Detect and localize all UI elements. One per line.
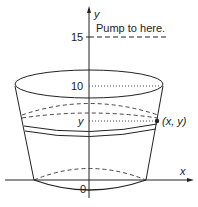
tick-label-15: 15: [71, 31, 83, 43]
tick-label-y: y: [77, 115, 85, 127]
y-axis: [87, 6, 91, 198]
slice-solid-top: [24, 124, 157, 132]
slice-dashed-front: [22, 113, 158, 118]
tank-bottom-back: [34, 169, 146, 181]
slice-solid-bottom: [25, 129, 156, 137]
pump-annotation: Pump to here.: [96, 22, 165, 34]
tick-label-10: 10: [71, 80, 83, 92]
tank-right-wall: [146, 86, 163, 180]
origin-label: 0: [80, 183, 86, 195]
point-label: (x, y): [162, 115, 187, 127]
y-axis-label: y: [93, 8, 101, 20]
point-xy: [155, 119, 159, 123]
tank-diagram: y Pump to here. 15 10 y (x, y) x 0: [0, 0, 198, 207]
tank-bottom-front: [34, 180, 146, 190]
tank-left-wall: [15, 86, 34, 180]
x-axis-label: x: [179, 165, 186, 177]
slice-dashed-back: [22, 104, 158, 116]
